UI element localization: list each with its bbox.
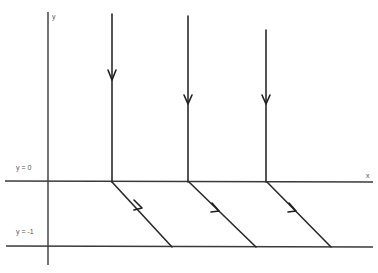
ray-3-refracted: [267, 182, 331, 247]
ray-2: [184, 16, 256, 247]
ray-3-diag-arrow-icon: [288, 203, 296, 212]
lower-boundary-label: y = -1: [16, 228, 34, 236]
ray-3: [262, 30, 331, 247]
ray-2-diag-arrow-icon: [211, 203, 219, 212]
ray-1-refracted: [112, 182, 172, 247]
upper-boundary-label: y = 0: [16, 164, 31, 172]
diagram-canvas: y x y = 0 y = -1: [0, 0, 378, 273]
lower-boundary: [6, 246, 373, 247]
x-axis-label: x: [366, 172, 370, 179]
y-axis-label: y: [52, 13, 56, 21]
ray-1-diag-arrow-icon: [134, 200, 142, 210]
ray-1: [108, 14, 172, 247]
ray-2-refracted: [189, 182, 256, 247]
